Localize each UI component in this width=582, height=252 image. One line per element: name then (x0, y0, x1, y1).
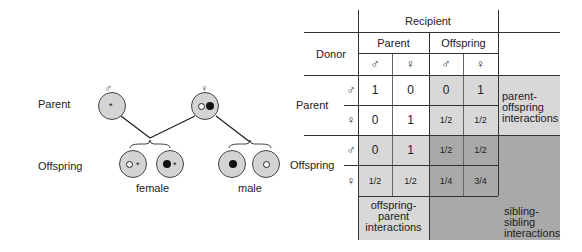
open-circle-marker-icon (198, 103, 205, 110)
recipient-sex-male: ♂ (429, 53, 463, 75)
star-marker-icon: * (136, 161, 140, 170)
donor-group-offspring: Offspring (290, 158, 344, 172)
star-marker-icon: * (109, 102, 113, 111)
annotation-offspring-parent: offspring- parent interactions (358, 200, 429, 233)
table-cell: 1/2 (429, 105, 463, 135)
open-circle-marker-icon (126, 161, 133, 168)
annotation-parent-offspring: parent- offspring interactions (502, 91, 558, 124)
table-cell: 0 (392, 75, 429, 105)
open-circle-marker-icon (263, 161, 270, 168)
donor-group-parent: Parent (296, 98, 346, 112)
recipient-group-offspring: Offspring (429, 32, 498, 53)
donor-sex-male: ♂ (344, 135, 358, 165)
table-cell: 1/2 (429, 135, 463, 165)
offspring-label-female: female (136, 182, 169, 194)
parent-male-circle: * (98, 92, 126, 120)
table-cell: 1 (358, 75, 392, 105)
recipient-sex-female: ♀ (463, 53, 498, 75)
offspring-female-1-circle: * (119, 150, 147, 178)
recipient-sex-male: ♂ (358, 53, 392, 75)
offspring-male-2-circle (252, 150, 280, 178)
table-cell: 1 (392, 105, 429, 135)
annotation-sibling-sibling: sibling- sibling interactions (504, 206, 560, 239)
offspring-male-1-circle (218, 150, 246, 178)
filled-circle-marker-icon (229, 160, 237, 168)
pedigree-lines (0, 0, 300, 252)
filled-circle-marker-icon (206, 102, 214, 110)
table-cell: 0 (358, 135, 392, 165)
table-cell: 0 (358, 105, 392, 135)
donor-header: Donor (304, 32, 358, 75)
offspring-label-male: male (238, 182, 262, 194)
recipient-sex-female: ♀ (392, 53, 429, 75)
donor-sex-female: ♀ (344, 165, 358, 196)
donor-sex-male: ♂ (344, 75, 358, 105)
donor-sex-female: ♀ (344, 105, 358, 135)
parent-female-circle (191, 92, 219, 120)
offspring-female-2-circle: * (156, 150, 184, 178)
recipient-group-parent: Parent (358, 32, 429, 53)
table-cell: 1/2 (463, 135, 498, 165)
table-cell: 3/4 (463, 165, 498, 196)
star-marker-icon: * (173, 161, 177, 170)
table-cell: 0 (429, 75, 463, 105)
table-cell: 1 (392, 135, 429, 165)
filled-circle-marker-icon (163, 160, 171, 168)
table-cell: 1/2 (358, 165, 392, 196)
table-cell: 1 (463, 75, 498, 105)
table-cell: 1/2 (392, 165, 429, 196)
table-cell: 1/4 (429, 165, 463, 196)
table-cell: 1/2 (463, 105, 498, 135)
recipient-header: Recipient (358, 10, 498, 32)
